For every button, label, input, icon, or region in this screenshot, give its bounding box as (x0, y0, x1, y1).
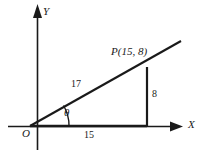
figure-canvas (0, 0, 205, 159)
x-axis-label: X (188, 119, 195, 130)
opposite-length-label: 8 (152, 89, 157, 99)
x-axis-arrowhead (170, 122, 183, 132)
point-p-label: P(15, 8) (111, 46, 147, 57)
angle-theta-label: θ (64, 107, 69, 118)
hypotenuse-line (30, 41, 181, 126)
adjacent-length-label: 15 (84, 130, 94, 140)
y-axis-arrowhead (33, 4, 42, 18)
hypotenuse-length-label: 17 (71, 79, 81, 89)
geometry-figure: Y X O P(15, 8) θ 17 8 15 (0, 0, 205, 159)
origin-label: O (22, 128, 30, 139)
y-axis-label: Y (43, 6, 49, 17)
